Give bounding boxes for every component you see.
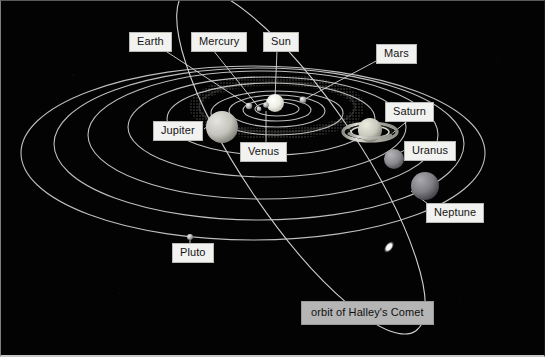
body-neptune: [411, 172, 439, 200]
diagram-canvas: [1, 1, 545, 357]
label-jupiter[interactable]: Jupiter: [153, 121, 203, 141]
label-earth[interactable]: Earth: [129, 32, 172, 52]
label-saturn[interactable]: Saturn: [385, 102, 434, 122]
label-halleys-comet-orbit[interactable]: orbit of Halley's Comet: [301, 301, 434, 325]
label-uranus[interactable]: Uranus: [404, 141, 456, 161]
label-neptune[interactable]: Neptune: [426, 203, 484, 223]
label-venus[interactable]: Venus: [240, 142, 287, 162]
solar-system-diagram: Earth Mercury Sun Mars Jupiter Venus Sat…: [0, 0, 545, 357]
body-jupiter: [206, 111, 238, 143]
leader-sun: [275, 50, 277, 99]
body-venus: [263, 102, 269, 108]
body-comet: [382, 239, 397, 255]
label-mars[interactable]: Mars: [376, 44, 417, 64]
body-sun: [266, 94, 284, 112]
label-mercury[interactable]: Mercury: [191, 32, 247, 52]
body-mercury: [257, 107, 262, 112]
body-pluto: [187, 234, 193, 240]
body-earth: [246, 103, 252, 109]
body-uranus: [384, 149, 404, 169]
body-mars: [300, 97, 307, 104]
label-sun[interactable]: Sun: [263, 32, 299, 52]
label-pluto[interactable]: Pluto: [172, 243, 214, 263]
